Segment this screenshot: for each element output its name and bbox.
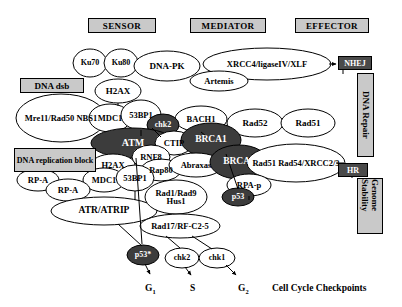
node-shape-rad51[interactable] bbox=[281, 109, 335, 137]
vertical-label-text-genome-stability: Genome Stability bbox=[358, 179, 382, 233]
vertical-label-text-dna-repair: DNA Repair bbox=[358, 74, 373, 156]
node-shape-p53-star[interactable] bbox=[127, 245, 159, 265]
edge-rad17-chk1 bbox=[192, 236, 212, 249]
header-box-mediator: MEDIATOR bbox=[190, 18, 266, 33]
vertical-label-genome-stability: Genome Stability bbox=[357, 178, 383, 234]
header-box-sensor: SENSOR bbox=[88, 18, 156, 33]
edge-chk2-s bbox=[185, 267, 191, 275]
outcome-box-nhej: NHEJ bbox=[338, 56, 372, 70]
vertical-label-dna-repair: DNA Repair bbox=[357, 73, 374, 157]
phase-sub-g1: 1 bbox=[152, 288, 155, 295]
node-shape-atr-atrip[interactable] bbox=[51, 197, 157, 225]
phase-sub-g2: 2 bbox=[245, 288, 248, 295]
node-shape-53bp1-lower[interactable] bbox=[116, 165, 154, 191]
node-shape-artemis[interactable] bbox=[190, 71, 248, 91]
caption-cell-cycle-checkpoints: Cell Cycle Checkpoints bbox=[272, 283, 366, 293]
node-shape-ku70[interactable] bbox=[73, 49, 107, 77]
node-shape-ku80[interactable] bbox=[104, 49, 138, 77]
outcome-box-hr: HR bbox=[338, 163, 368, 177]
node-shape-chk1[interactable] bbox=[199, 248, 235, 268]
phase-label-g1: G1 bbox=[145, 283, 156, 295]
stimulus-box-dna-dsb: DNA dsb bbox=[20, 78, 84, 93]
phase-label-s: S bbox=[190, 283, 195, 293]
node-shape-rad1-rad9-hus1[interactable] bbox=[145, 180, 207, 214]
edge-atr-p53 bbox=[118, 224, 142, 246]
pathway-diagram: Ku70Ku80DNA-PKXRCC4/ligaseIV/XLFArtemisH… bbox=[0, 0, 402, 307]
node-shape-h2ax-top[interactable] bbox=[95, 79, 141, 103]
stimulus-box-dna-replication-block: DNA replication block bbox=[14, 148, 96, 172]
edge-p53-g1 bbox=[145, 264, 150, 274]
edge-chk1-g2 bbox=[226, 265, 236, 275]
node-shape-rad17-rfc25[interactable] bbox=[140, 214, 220, 238]
phase-main-s: S bbox=[190, 283, 195, 293]
phase-label-g2: G2 bbox=[238, 283, 249, 295]
node-shape-dna-pk[interactable] bbox=[134, 51, 200, 81]
node-shape-chk2-bottom[interactable] bbox=[165, 248, 199, 268]
header-box-effector: EFFECTOR bbox=[295, 18, 369, 33]
